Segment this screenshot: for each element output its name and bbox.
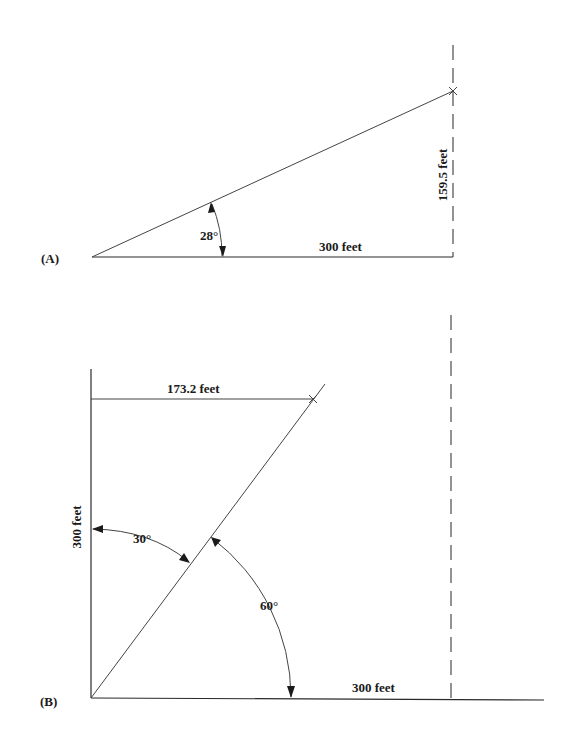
panel-b-60deg-arrow-up-icon: [211, 537, 221, 547]
panel-b-diagonal: [91, 384, 325, 698]
panel-b-horizontal-label: 300 feet: [352, 680, 396, 695]
panel-b-30deg-arrow-left-icon: [92, 525, 103, 533]
panel-b-60deg-arc: [212, 538, 291, 697]
panel-b-vertical-label: 300 feet: [69, 505, 84, 549]
panel-b-top-label: 173.2 feet: [167, 381, 220, 396]
angle-diagram: (A) 28° 300 feet 159.5 feet (B) 173.2 fe…: [0, 0, 582, 748]
panel-b-30deg-arrow-right-icon: [179, 553, 190, 563]
panel-b-60deg-label: 60°: [260, 598, 278, 613]
panel-a-label: (A): [41, 251, 59, 266]
panel-b: (B) 173.2 feet 30° 60° 300 feet 300 feet: [40, 315, 544, 709]
panel-b-baseline: [91, 698, 544, 700]
panel-a-angle-label: 28°: [200, 228, 218, 243]
panel-a-height-label: 159.5 feet: [435, 148, 450, 201]
panel-a-arc-arrow-down-icon: [219, 246, 226, 257]
panel-b-30deg-label: 30°: [133, 531, 151, 546]
panel-a: (A) 28° 300 feet 159.5 feet: [41, 45, 457, 266]
panel-b-label: (B): [40, 694, 57, 709]
panel-a-base-label: 300 feet: [319, 239, 363, 254]
panel-a-hypotenuse: [92, 91, 453, 257]
panel-b-60deg-arrow-down-icon: [287, 686, 295, 698]
